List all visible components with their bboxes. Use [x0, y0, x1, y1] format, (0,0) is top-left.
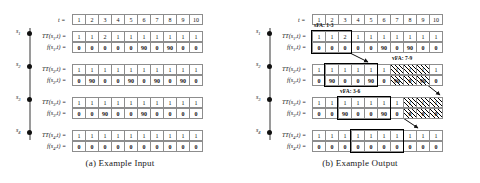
tt-s2-a-cell-8: 1 — [163, 64, 177, 75]
tt-s2-a-cell-9: 1 — [176, 64, 190, 75]
tt-s3-b-cell-6: 1 — [377, 97, 391, 108]
f-s3-a-cell-1: 0 — [72, 108, 86, 119]
row-label-tt-s3-b: TT(s3,t) = — [254, 99, 306, 107]
f-s3-b-cell-8: 0 — [403, 108, 417, 119]
f-s1-a-cell-1: 0 — [72, 42, 86, 53]
f-s4-a-cell-7: 0 — [150, 141, 164, 152]
caption-panel-b: (b) Example Output — [240, 158, 480, 168]
tt-s4-a-cell-10: 1 — [189, 130, 203, 141]
f-s3-b-cell-5: 0 — [364, 108, 378, 119]
f-s4-b-cell-3: 0 — [338, 141, 352, 152]
f-s1-a-cell-10: 0 — [189, 42, 203, 53]
tt-s3-a-cell-1: 1 — [72, 97, 86, 108]
tt-s4-a-cell-3: 1 — [98, 130, 112, 141]
tt-s4-b-cell-1: 1 — [312, 130, 326, 141]
tt-s4-a-cell-7: 1 — [150, 130, 164, 141]
f-s3-b-cell-4: 0 — [351, 108, 365, 119]
f-s3-a-cell-4: 0 — [111, 108, 125, 119]
f-s1-a-cell-4: 0 — [111, 42, 125, 53]
time-tick-3-b: 3 — [338, 14, 352, 25]
tt-s3-b-cell-2: 1 — [325, 97, 339, 108]
f-s2-b-cell-1: 0 — [312, 75, 326, 86]
f-s3-a-cell-3: 90 — [98, 108, 112, 119]
f-s3-b-cell-2: 0 — [325, 108, 339, 119]
f-s3-b-cell-3: 90 — [338, 108, 352, 119]
tt-s1-a-cell-8: 1 — [163, 31, 177, 42]
time-tick-1-a: 1 — [72, 14, 86, 25]
tt-s4-a-cell-6: 1 — [137, 130, 151, 141]
f-s2-b-cell-3: 0 — [338, 75, 352, 86]
tt-s4-a-cell-2: 1 — [85, 130, 99, 141]
f-s3-a-cell-9: 0 — [176, 108, 190, 119]
f-s1-a-cell-9: 0 — [176, 42, 190, 53]
f-s2-a-cell-9: 90 — [176, 75, 190, 86]
time-tick-4-b: 4 — [351, 14, 365, 25]
tt-s3-a-cell-4: 1 — [111, 97, 125, 108]
f-s4-b-cell-9: 0 — [416, 141, 430, 152]
tt-s1-a-cell-5: 1 — [124, 31, 138, 42]
tt-s3-b-cell-7: 1 — [390, 97, 404, 108]
tt-s3-b-cell-10: 1 — [429, 97, 443, 108]
time-header-label-b: t = — [298, 17, 305, 23]
tt-s2-a-cell-7: 1 — [150, 64, 164, 75]
time-tick-6-b: 6 — [377, 14, 391, 25]
f-s4-b-cell-2: 0 — [325, 141, 339, 152]
f-s2-b-cell-10: 0 — [429, 75, 443, 86]
time-tick-5-b: 5 — [364, 14, 378, 25]
f-row-s3-b: 009000900000 — [312, 108, 443, 119]
tt-s1-a-cell-9: 1 — [176, 31, 190, 42]
tt-s3-b-cell-5: 1 — [364, 97, 378, 108]
f-s4-a-cell-6: 0 — [137, 141, 151, 152]
tt-s1-a-cell-7: 1 — [150, 31, 164, 42]
row-label-tt-s4-b: TT(s4,t) = — [254, 132, 306, 140]
f-s1-b-cell-2: 0 — [325, 42, 339, 53]
time-tick-10-a: 10 — [189, 14, 203, 25]
tt-s3-a-cell-8: 1 — [163, 97, 177, 108]
f-s2-a-cell-7: 90 — [150, 75, 164, 86]
tt-s3-a-cell-6: 1 — [137, 97, 151, 108]
f-s2-b-cell-8: 0 — [403, 75, 417, 86]
f-s4-a-cell-5: 0 — [124, 141, 138, 152]
f-s2-a-cell-1: 0 — [72, 75, 86, 86]
figure-root: t = 12345678910 s1 s2 s3 s4 (a) Example … — [0, 0, 480, 183]
tt-s4-b-cell-10: 1 — [429, 130, 443, 141]
tt-s3-a-cell-5: 1 — [124, 97, 138, 108]
panel-a-decoration — [0, 0, 240, 183]
tt-s4-b-cell-2: 1 — [325, 130, 339, 141]
tt-s1-a-cell-2: 1 — [85, 31, 99, 42]
tt-s3-a-cell-3: 1 — [98, 97, 112, 108]
row-label-f-s4-b: f(s4,t) = — [254, 143, 306, 151]
tt-s2-b-cell-4: 1 — [351, 64, 365, 75]
tt-s2-a-cell-4: 1 — [111, 64, 125, 75]
tt-s2-a-cell-3: 1 — [98, 64, 112, 75]
f-s1-a-cell-3: 0 — [98, 42, 112, 53]
tt-s1-b-cell-3: 2 — [338, 31, 352, 42]
time-tick-3-a: 3 — [98, 14, 112, 25]
f-s3-a-cell-7: 0 — [150, 108, 164, 119]
tt-s3-b-cell-3: 1 — [338, 97, 352, 108]
tt-s2-b-cell-7: 1 — [390, 64, 404, 75]
row-label-tt-s4-a: TT(s4,t) = — [14, 132, 66, 140]
f-s1-b-cell-3: 0 — [338, 42, 352, 53]
f-row-s4-b: 0000000000 — [312, 141, 443, 152]
tt-s1-b-cell-10: 1 — [429, 31, 443, 42]
f-s4-a-cell-3: 0 — [98, 141, 112, 152]
tt-s4-b-cell-3: 1 — [338, 130, 352, 141]
tt-s3-b-cell-9: 1 — [416, 97, 430, 108]
time-tick-7-b: 7 — [390, 14, 404, 25]
row-label-f-s2-b: f(s2,t) = — [254, 77, 306, 85]
tt-s1-b-cell-5: 1 — [364, 31, 378, 42]
tt-s2-a-cell-10: 1 — [189, 64, 203, 75]
tt-s1-b-cell-7: 1 — [390, 31, 404, 42]
tt-s4-b-cell-5: 1 — [364, 130, 378, 141]
f-s2-b-cell-4: 0 — [351, 75, 365, 86]
tt-s1-a-cell-4: 1 — [111, 31, 125, 42]
f-s3-a-cell-8: 0 — [163, 108, 177, 119]
tt-s4-b-cell-6: 1 — [377, 130, 391, 141]
row-label-f-s4-a: f(s4,t) = — [14, 143, 66, 151]
tt-s1-a-cell-3: 2 — [98, 31, 112, 42]
time-tick-2-a: 2 — [85, 14, 99, 25]
tt-row-s3-a: 1111111111 — [72, 97, 203, 108]
f-s1-a-cell-5: 0 — [124, 42, 138, 53]
time-header-row-a: 12345678910 — [72, 14, 203, 25]
